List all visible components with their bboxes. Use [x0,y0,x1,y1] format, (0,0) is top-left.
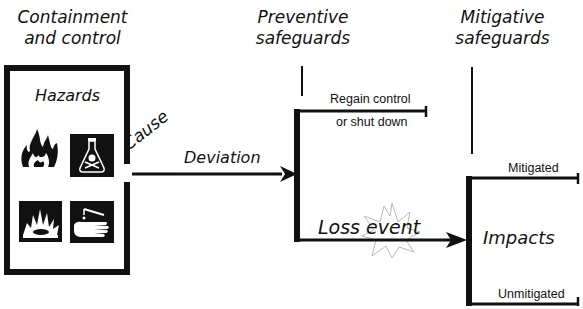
mitigative-header: Mitigative safeguards [445,7,560,49]
preventive-header-line1: Preventive [248,7,358,28]
deviation-label: Deviation [184,148,261,167]
explosion-icon [19,201,62,242]
loss-event-label: Loss event [318,216,420,238]
mitigated-label: Mitigated [508,160,559,176]
impacts-label: Impacts [483,227,555,248]
mitigative-header-line2: safeguards [445,28,560,49]
unmitigated-label: Unmitigated [498,286,565,302]
preventive-header: Preventive safeguards [248,7,358,49]
deviation-arrow [132,166,297,182]
containment-header-line1: Containment [0,7,145,28]
shut-down-label: or shut down [336,114,408,130]
toxic-flask-icon [70,134,114,177]
regain-control-label: Regain control [330,91,411,107]
containment-header-line2: and control [0,28,145,49]
mitigative-header-line1: Mitigative [445,7,560,28]
flame-icon [17,127,60,169]
preventive-header-line2: safeguards [248,28,358,49]
containment-header: Containment and control [0,7,145,49]
corrosive-hand-icon [70,201,114,243]
hazards-title: Hazards [10,86,125,105]
